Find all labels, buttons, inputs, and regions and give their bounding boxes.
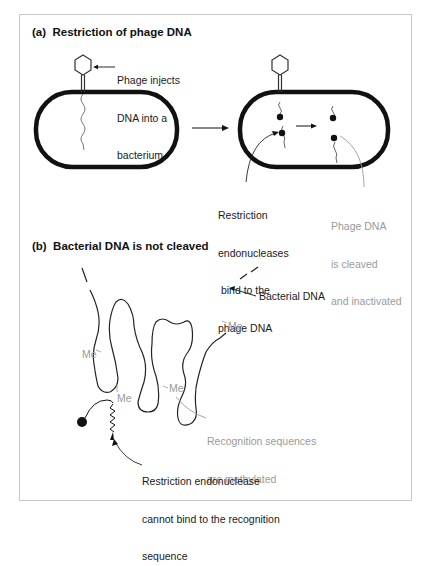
process-arrow <box>192 125 229 131</box>
methyl-label: Me <box>228 320 243 333</box>
phage-cleaved-label: Phage DNA is cleaved and inactivated <box>331 195 402 320</box>
methyl-label: Me <box>169 382 184 395</box>
cannot-bind-label: Restriction endonuclease cannot bind to … <box>142 450 280 566</box>
cleaved-dna <box>332 106 338 163</box>
inner-arrow <box>296 124 317 129</box>
cleaved-pointer <box>340 136 364 187</box>
phage-icon-left <box>75 55 91 92</box>
phage-dna-left <box>81 94 85 150</box>
phage-dna-bound <box>279 102 286 148</box>
methyl-label: Me <box>82 348 97 361</box>
phage-icon-right <box>272 55 288 92</box>
panel-b-heading: (b) Bacterial DNA is not cleaved <box>32 240 209 252</box>
endonuclease-tether <box>85 400 113 418</box>
methyl-ticks <box>96 321 227 392</box>
endonuclease-dot <box>279 130 285 136</box>
bacterium-right <box>240 92 388 167</box>
panel-a-heading: (a) Restriction of phage DNA <box>32 26 192 38</box>
endonuclease-dot <box>331 135 337 141</box>
bacterial-dna-label: Bacterial DNA <box>259 290 325 303</box>
endonuclease-blocked-dot <box>77 417 87 427</box>
methyl-label: Me <box>117 392 132 405</box>
phage-pointer-arrow <box>93 65 115 69</box>
endonuclease-dot <box>330 115 336 121</box>
endonuclease-zigzag <box>110 404 115 432</box>
phage-injects-label: Phage injects DNA into a bacterium <box>117 49 180 174</box>
cannot-bind-pointer <box>115 442 142 465</box>
endonuclease-dot <box>277 114 283 120</box>
